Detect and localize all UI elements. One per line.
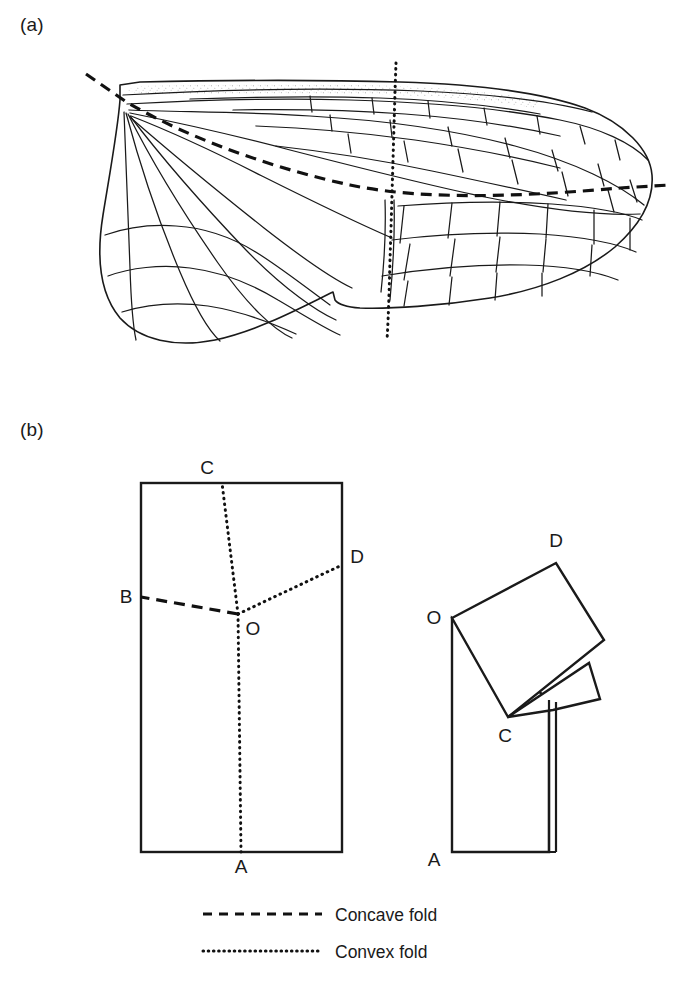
figure-root: (a) — [0, 0, 673, 984]
wing-outline-group — [100, 81, 652, 344]
panel-b-fold-schematic: C B D O A O D C A Concave fold Convex fo… — [0, 400, 673, 984]
point-label-o-folded: O — [427, 607, 442, 628]
panel-a-wing-diagram — [0, 0, 673, 400]
point-label-b-flat: B — [120, 586, 133, 607]
flat-rectangle — [141, 483, 342, 852]
flat-rectangle-group: C B D O A — [120, 457, 364, 877]
point-label-c-flat: C — [200, 457, 214, 478]
point-label-c-folded: C — [498, 725, 512, 746]
point-label-o-flat: O — [246, 618, 261, 639]
point-label-d-flat: D — [350, 546, 364, 567]
point-label-d-folded: D — [549, 530, 563, 551]
point-label-a-flat: A — [235, 856, 248, 877]
folded-sheet-group: O D C A — [427, 530, 604, 870]
legend-label-concave: Concave fold — [335, 905, 437, 925]
point-label-a-folded: A — [428, 849, 441, 870]
legend-label-convex: Convex fold — [335, 942, 427, 962]
legend: Concave fold Convex fold — [203, 905, 437, 962]
